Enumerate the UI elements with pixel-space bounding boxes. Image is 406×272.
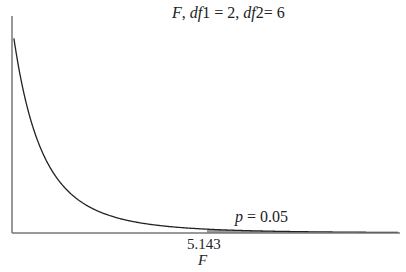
title-df2: df — [243, 4, 255, 21]
title-df2-value: 2= 6 — [256, 4, 285, 21]
p-value: = 0.05 — [243, 208, 288, 225]
p-symbol: p — [235, 208, 243, 225]
plot-area — [0, 0, 406, 272]
chart-title: F, df1 = 2, df2= 6 — [172, 4, 285, 22]
title-df1: df — [190, 4, 202, 21]
alpha-label: p = 0.05 — [235, 208, 288, 226]
title-sep: , — [182, 4, 190, 21]
x-axis-label: F — [198, 252, 207, 269]
critical-value-label: 5.143 — [187, 236, 221, 253]
title-df1-value: 1 = 2, — [202, 4, 243, 21]
title-f: F — [172, 4, 182, 21]
f-density-curve — [14, 38, 398, 232]
